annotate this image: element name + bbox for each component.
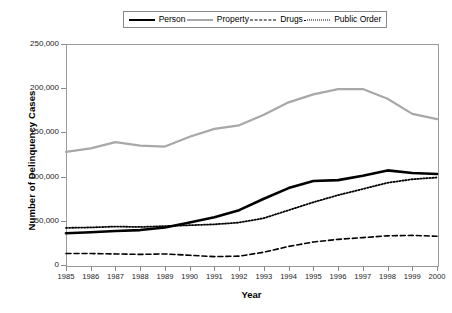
legend-swatch-property-icon [187,16,213,23]
x-axis-tick-label: 2000 [422,273,452,281]
legend-item-property: Property [187,15,249,24]
chart-legend: Person Property Drugs Public Order [123,11,387,28]
legend-item-drugs: Drugs [250,15,303,24]
x-axis-tick-mark [388,266,389,271]
plot-lines [66,44,437,265]
x-axis-tick-mark [115,266,116,271]
y-axis-tick-label: 250,000 [30,40,59,48]
y-axis-tick-label: 50,000 [35,217,59,225]
x-axis-tick-mark [66,266,67,271]
series-line-property [66,89,437,152]
x-axis-tick-mark [289,266,290,271]
y-axis-tick-label: 0 [55,261,59,269]
legend-item-person: Person [129,15,186,24]
legend-label-public-order: Public Order [334,15,381,24]
x-axis-tick-mark [264,266,265,271]
y-axis-tick-label: 200,000 [30,84,59,92]
y-axis-tick-labels: 050,000100,000150,000200,000250,000 [0,0,59,313]
legend-label-drugs: Drugs [280,15,303,24]
legend-swatch-person-icon [129,16,155,23]
y-axis-tick-label: 100,000 [30,173,59,181]
delinquency-cases-line-chart: Person Property Drugs Public Order Numbe… [0,0,452,313]
legend-item-public-order: Public Order [304,15,381,24]
legend-label-person: Person [159,15,186,24]
series-line-public-order [66,177,437,227]
x-axis-tick-mark [165,266,166,271]
series-line-person [66,170,437,233]
legend-label-property: Property [217,15,249,24]
series-line-drugs [66,235,437,256]
y-axis-tick-label: 150,000 [30,128,59,136]
x-axis-tick-mark [412,266,413,271]
x-axis-tick-mark [437,266,438,271]
x-axis-tick-mark [338,266,339,271]
x-axis-tick-mark [363,266,364,271]
x-axis-tick-mark [140,266,141,271]
legend-swatch-drugs-icon [250,16,276,23]
x-axis-title: Year [66,289,437,300]
x-axis-tick-mark [313,266,314,271]
x-axis-tick-mark [214,266,215,271]
x-axis-tick-mark [239,266,240,271]
legend-swatch-public-order-icon [304,16,330,23]
x-axis-tick-mark [91,266,92,271]
x-axis-tick-mark [190,266,191,271]
